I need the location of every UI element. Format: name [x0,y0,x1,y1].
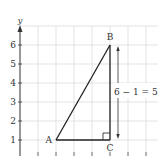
y-tick-3: 3 [10,97,16,107]
coordinate-grid: y 1 2 3 4 5 6 A B C 6 − 1 = 5 [0,0,158,156]
x-tick-marks [38,152,146,156]
diagram-figure: y 1 2 3 4 5 6 A B C 6 − 1 = 5 [0,0,158,156]
point-b-label: B [107,32,114,42]
arrow-down-icon [116,134,119,139]
y-tick-labels: 1 2 3 4 5 6 [10,40,16,145]
point-c-label: C [107,143,114,153]
y-tick-5: 5 [10,59,16,69]
point-a-label: A [45,135,53,145]
y-tick-4: 4 [10,78,16,88]
right-angle-marker-icon [103,133,110,140]
y-axis-label: y [17,16,23,25]
arrow-up-icon [116,46,119,51]
y-tick-6: 6 [10,40,16,50]
right-triangle [56,45,110,140]
side-ab [56,45,110,140]
y-tick-1: 1 [10,135,16,145]
y-tick-2: 2 [10,116,16,126]
length-annotation: 6 − 1 = 5 [114,87,158,97]
y-axis: y [17,16,23,156]
